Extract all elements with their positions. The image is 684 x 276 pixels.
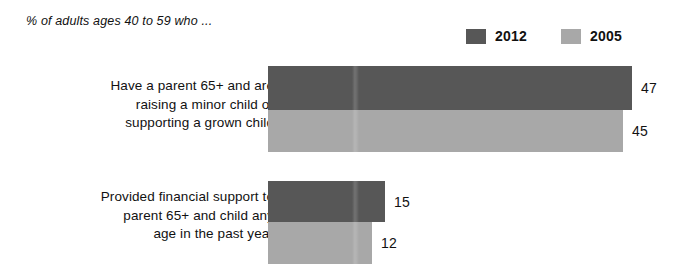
category-label-2-line-2: parent 65+ and child any [34, 207, 274, 226]
bar-1-2005 [268, 110, 623, 152]
bar-value-1-2005: 45 [632, 123, 648, 139]
category-label-1: Have a parent 65+ and are raising a mino… [34, 77, 274, 133]
bar-row-1-2012: 47 [268, 66, 657, 110]
bar-1-2012 [268, 66, 632, 110]
bar-value-1-2012: 47 [641, 80, 657, 96]
category-label-2: Provided financial support to parent 65+… [34, 188, 274, 244]
bar-chart: % of adults ages 40 to 59 who ... 2012 2… [0, 0, 684, 276]
category-label-1-line-3: supporting a grown child [34, 114, 274, 133]
bar-2-2005 [268, 222, 372, 264]
bar-2-2012 [268, 181, 385, 222]
bar-row-1-2005: 45 [268, 110, 648, 152]
bar-row-2-2012: 15 [268, 181, 410, 222]
bar-value-2-2012: 15 [394, 194, 410, 210]
category-label-2-line-1: Provided financial support to [34, 188, 274, 207]
category-label-2-line-3: age in the past year [34, 225, 274, 244]
plot-area: Have a parent 65+ and are raising a mino… [0, 0, 684, 276]
bar-group-1: Have a parent 65+ and are raising a mino… [0, 66, 684, 152]
bar-value-2-2005: 12 [381, 235, 397, 251]
bar-group-2: Provided financial support to parent 65+… [0, 181, 684, 264]
bar-row-2-2005: 12 [268, 222, 397, 264]
category-label-1-line-1: Have a parent 65+ and are [34, 77, 274, 96]
category-label-1-line-2: raising a minor child or [34, 96, 274, 115]
